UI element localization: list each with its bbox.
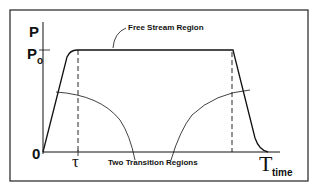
free-stream-leader	[113, 28, 126, 48]
po-label-sub: o	[37, 55, 43, 66]
y-axis-label: P	[29, 24, 39, 39]
end-time-label: T	[259, 153, 272, 175]
right-transition-curve	[171, 90, 250, 160]
po-label: Po	[27, 46, 43, 61]
transition-annotation: Two Transition Regions	[108, 159, 198, 167]
po-label-main: P	[27, 45, 37, 62]
left-transition-curve	[56, 92, 135, 160]
tau-label: τ	[72, 153, 79, 170]
pressure-curve	[43, 50, 268, 152]
x-axis-label: time	[272, 168, 293, 178]
origin-label: 0	[32, 146, 40, 161]
free-stream-annotation: Free Stream Region	[128, 24, 204, 32]
